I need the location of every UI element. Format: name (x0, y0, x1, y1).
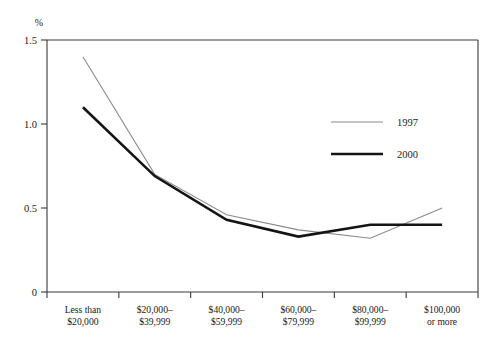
y-tick-label: 1.5 (24, 35, 37, 46)
chart-series (83, 57, 442, 238)
x-tick-label: $99,999 (355, 316, 386, 327)
x-tick-label: $39,999 (139, 316, 170, 327)
x-tick-label: $79,999 (283, 316, 314, 327)
series-line-1997 (83, 57, 442, 238)
x-tick-label: $80,000– (352, 304, 388, 315)
series-line-2000 (83, 107, 442, 236)
y-tick-label: 0.5 (24, 203, 37, 214)
chart-legend: 19972000 (331, 117, 418, 160)
legend-label-1997: 1997 (397, 117, 418, 128)
x-tick-label: $20,000– (137, 304, 173, 315)
line-chart: 00.51.01.5%Less than$20,000$20,000–$39,9… (0, 0, 504, 348)
x-tick-label: $100,000 (424, 304, 460, 315)
y-axis-unit-label: % (35, 17, 43, 28)
y-tick-label: 0 (32, 287, 37, 298)
chart-axes: 00.51.01.5%Less than$20,000$20,000–$39,9… (24, 17, 478, 327)
legend-label-2000: 2000 (397, 149, 418, 160)
x-tick-label: $20,000 (67, 316, 98, 327)
chart-container: 00.51.01.5%Less than$20,000$20,000–$39,9… (0, 0, 504, 348)
x-tick-label: $59,999 (211, 316, 242, 327)
x-tick-label: or more (427, 316, 457, 327)
y-tick-label: 1.0 (24, 119, 37, 130)
x-tick-label: Less than (65, 304, 102, 315)
axis-lines (47, 40, 478, 292)
x-tick-label: $60,000– (280, 304, 316, 315)
x-tick-label: $40,000– (209, 304, 245, 315)
